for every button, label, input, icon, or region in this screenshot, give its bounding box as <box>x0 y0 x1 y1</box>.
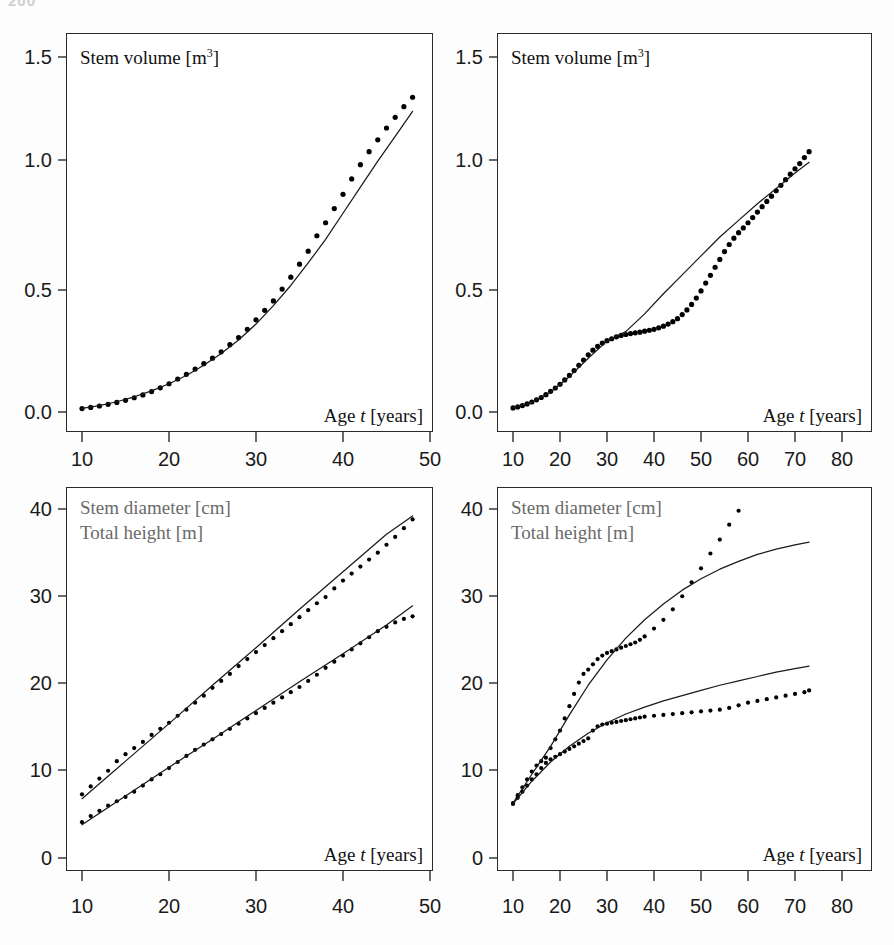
model-fit-curve <box>82 111 413 408</box>
panel-bottom-left-diameter-height: Stem diameter [cm] Total height [m] Age … <box>66 487 433 871</box>
panel-title-text: Stem volume [m <box>80 47 207 68</box>
panel-top-left-stem-volume: Stem volume [m3] Age t [years] <box>66 33 433 432</box>
x-axis-caption-unit: [years] <box>366 405 424 426</box>
y-tick-label: 1.0 <box>14 149 52 172</box>
model-fit-curve <box>513 542 809 803</box>
observed-data-points <box>79 95 415 412</box>
x-tick-label: 40 <box>332 895 354 918</box>
x-tick-label: 80 <box>831 895 853 918</box>
y-tick-label: 40 <box>445 498 483 521</box>
model-fit-curve <box>513 162 809 408</box>
x-axis-caption: Age t [years] <box>324 403 423 428</box>
x-axis-caption-unit: [years] <box>366 844 424 865</box>
y-tick-label: 0.5 <box>445 279 483 302</box>
x-axis-caption: Age t [years] <box>324 842 423 867</box>
model-fit-curve <box>82 606 413 825</box>
panel-title-close: ] <box>644 47 650 68</box>
x-tick-label: 40 <box>332 448 354 471</box>
x-tick-label: 10 <box>502 448 524 471</box>
y-tick-label: 0.5 <box>14 279 52 302</box>
x-axis-caption-unit: [years] <box>805 844 863 865</box>
observed-data-points <box>510 149 811 410</box>
x-tick-label: 10 <box>71 895 93 918</box>
y-tick-label: 1.5 <box>445 46 483 69</box>
x-axis-caption: Age t [years] <box>763 403 862 428</box>
figure-root: 200 Stem volume [m3] Age t [years] 1.5 1… <box>0 0 894 945</box>
panel-bottom-right-diameter-height: Stem diameter [cm] Total height [m] Age … <box>497 487 872 871</box>
panel-title-line-1: Stem diameter [cm] <box>80 495 231 520</box>
observed-data-points <box>80 517 415 796</box>
x-tick-label: 20 <box>549 448 571 471</box>
y-tick-label: 20 <box>14 672 52 695</box>
x-tick-label: 50 <box>690 448 712 471</box>
x-tick-label: 20 <box>549 895 571 918</box>
observed-data-points <box>511 509 741 805</box>
y-tick-label: 0 <box>445 847 483 870</box>
x-axis-caption-prefix: Age <box>324 405 360 426</box>
panel-title: Stem diameter [cm] Total height [m] <box>80 495 231 545</box>
x-axis-caption-prefix: Age <box>324 844 360 865</box>
x-tick-label: 10 <box>502 895 524 918</box>
x-tick-label: 70 <box>784 448 806 471</box>
x-tick-label: 30 <box>245 895 267 918</box>
x-tick-label: 20 <box>158 448 180 471</box>
panel-title-line-1: Stem diameter [cm] <box>511 495 662 520</box>
x-tick-label: 80 <box>831 448 853 471</box>
page-number: 200 <box>8 0 36 9</box>
x-axis-caption-prefix: Age <box>763 844 799 865</box>
x-tick-label: 60 <box>737 895 759 918</box>
x-tick-label: 50 <box>419 895 441 918</box>
x-tick-label: 40 <box>643 448 665 471</box>
y-tick-label: 40 <box>14 498 52 521</box>
y-tick-label: 0.0 <box>14 401 52 424</box>
y-tick-label: 30 <box>445 585 483 608</box>
y-tick-label: 1.0 <box>445 149 483 172</box>
y-tick-label: 10 <box>445 759 483 782</box>
panel-title-close: ] <box>213 47 219 68</box>
x-axis-caption-unit: [years] <box>805 405 863 426</box>
x-tick-label: 30 <box>596 895 618 918</box>
y-tick-label: 0 <box>14 847 52 870</box>
y-tick-label: 30 <box>14 585 52 608</box>
y-tick-label: 10 <box>14 759 52 782</box>
panel-title-line-2: Total height [m] <box>80 520 231 545</box>
x-axis-caption-prefix: Age <box>763 405 799 426</box>
panel-title-line-2: Total height [m] <box>511 520 662 545</box>
plot-canvas <box>66 33 433 432</box>
y-tick-label: 0.0 <box>445 401 483 424</box>
y-tick-label: 1.5 <box>14 46 52 69</box>
x-tick-label: 50 <box>419 448 441 471</box>
panel-title: Stem volume [m3] <box>511 41 650 70</box>
x-tick-label: 30 <box>596 448 618 471</box>
observed-data-points <box>511 688 811 806</box>
panel-title-text: Stem volume [m <box>511 47 638 68</box>
x-tick-label: 50 <box>690 895 712 918</box>
x-tick-label: 60 <box>737 448 759 471</box>
plot-canvas <box>497 33 872 432</box>
x-tick-label: 70 <box>784 895 806 918</box>
panel-title: Stem diameter [cm] Total height [m] <box>511 495 662 545</box>
x-tick-label: 30 <box>245 448 267 471</box>
y-tick-label: 20 <box>445 672 483 695</box>
x-tick-label: 20 <box>158 895 180 918</box>
panel-top-right-stem-volume: Stem volume [m3] Age t [years] <box>497 33 872 432</box>
x-tick-label: 40 <box>643 895 665 918</box>
x-axis-caption: Age t [years] <box>763 842 862 867</box>
x-tick-label: 10 <box>71 448 93 471</box>
panel-title: Stem volume [m3] <box>80 41 219 70</box>
